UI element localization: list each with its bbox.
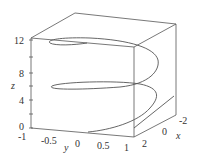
svg-text:-1: -1 — [18, 131, 26, 142]
svg-text:0.5: 0.5 — [97, 140, 110, 151]
y-tick-labels: -1 -0.5 0 0.5 1 — [18, 131, 129, 153]
svg-text:12: 12 — [14, 35, 24, 46]
z-axis-label: z — [10, 80, 15, 91]
bounding-box — [31, 13, 176, 137]
svg-text:-2: -2 — [179, 115, 187, 126]
svg-text:0: 0 — [162, 126, 167, 137]
helix-curve — [49, 38, 158, 132]
svg-text:1: 1 — [124, 142, 129, 153]
svg-text:8: 8 — [19, 68, 24, 79]
svg-text:4: 4 — [19, 95, 24, 106]
z-tick-labels: 12 8 4 0 — [14, 35, 24, 132]
x-tick-labels: 2 0 -2 — [142, 115, 187, 149]
x-axis-label: x — [175, 130, 181, 141]
helix-tail — [134, 96, 174, 128]
svg-text:0: 0 — [75, 138, 80, 149]
svg-text:-0.5: -0.5 — [41, 135, 57, 146]
helix-3d-plot: 12 8 4 0 z -1 -0.5 0 0.5 1 y 2 0 -2 x — [0, 0, 198, 157]
svg-text:2: 2 — [142, 138, 147, 149]
y-axis-label: y — [63, 142, 69, 153]
